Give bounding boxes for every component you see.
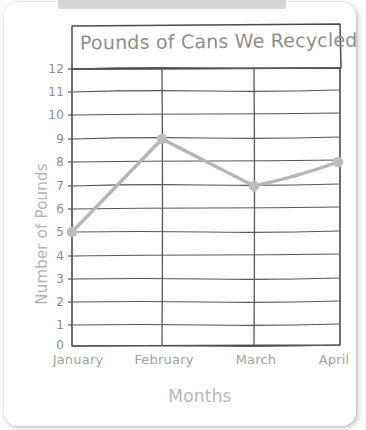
x-tick-label-january: January <box>46 352 110 367</box>
data-point-april[interactable] <box>333 157 343 167</box>
y-tick-label-9: 9 <box>42 132 64 146</box>
data-point-march[interactable] <box>249 181 259 191</box>
y-tick-label-4: 4 <box>42 249 64 263</box>
data-point-february[interactable] <box>157 134 167 144</box>
x-gridlines <box>162 67 255 346</box>
y-gridlines <box>72 68 340 347</box>
y-tick-label-12: 12 <box>42 62 64 76</box>
page-root: Pounds of Cans We Recycled Number of Pou… <box>0 0 366 430</box>
y-tick-label-11: 11 <box>42 85 64 99</box>
x-tick-label-april: April <box>308 352 360 367</box>
y-tick-label-3: 3 <box>42 272 64 286</box>
line-chart: Pounds of Cans We Recycled Number of Pou… <box>0 0 366 430</box>
y-tick-label-1: 1 <box>42 318 64 332</box>
y-tick-label-2: 2 <box>42 295 64 309</box>
y-tick-label-6: 6 <box>42 202 64 216</box>
y-tick-label-10: 10 <box>42 108 64 122</box>
x-tick-label-february: February <box>128 352 200 367</box>
x-axis-title: Months <box>140 386 260 406</box>
chart-title: Pounds of Cans We Recycled <box>80 29 358 54</box>
y-tick-label-0: 0 <box>42 338 64 352</box>
y-tick-label-5: 5 <box>42 225 64 239</box>
x-tick-label-march: March <box>226 352 286 367</box>
y-tick-label-8: 8 <box>42 155 64 169</box>
data-point-january[interactable] <box>67 227 77 237</box>
y-tick-label-7: 7 <box>42 179 64 193</box>
